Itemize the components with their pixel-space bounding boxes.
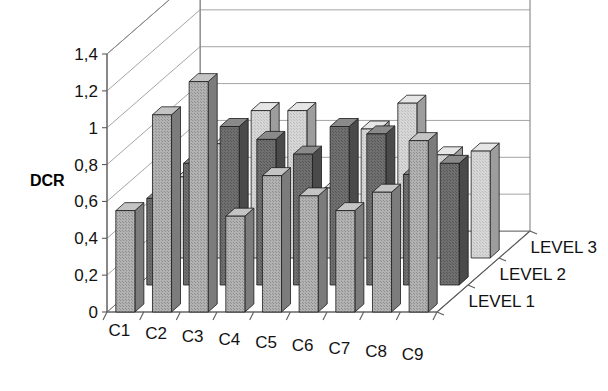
bar-front-face: [152, 115, 171, 312]
bar-c2-level1: [152, 107, 180, 312]
bar-c6-level1: [299, 188, 327, 312]
value-tick-label-2: 0,4: [74, 229, 98, 248]
value-tick-label-6: 1,2: [74, 82, 98, 101]
category-label-c8: C8: [365, 342, 387, 361]
category-label-c3: C3: [182, 327, 204, 346]
bar-c8-level1: [372, 184, 400, 312]
bar-side-face: [490, 143, 499, 258]
bar-side-face: [355, 203, 364, 312]
value-axis-title: DCR: [30, 172, 65, 189]
bar-front-face: [409, 141, 428, 312]
category-label-c5: C5: [255, 333, 277, 352]
depth-label-level-1: LEVEL 1: [469, 292, 535, 311]
value-tick-label-3: 0,6: [74, 192, 98, 211]
bar-front-face: [336, 211, 355, 312]
bar-front-face: [116, 211, 135, 312]
bar-side-face: [135, 203, 144, 312]
bar-side-face: [392, 184, 401, 312]
bar-side-face: [318, 188, 327, 312]
category-label-c9: C9: [402, 345, 424, 364]
value-tick-label-1: 0,2: [74, 266, 98, 285]
bar-side-face: [428, 133, 437, 312]
bar-front-face: [372, 192, 391, 312]
bar-c3-level1: [189, 74, 217, 312]
bar-side-face: [282, 168, 291, 312]
bar-front-face: [299, 196, 318, 312]
depth-label-level-2: LEVEL 2: [500, 265, 566, 284]
value-tick-label-0: 0: [89, 303, 98, 322]
value-tick-label-5: 1: [89, 119, 98, 138]
bar-front-face: [262, 176, 281, 312]
value-tick-label-7: 1,4: [74, 45, 98, 64]
bar-c5-level1: [262, 168, 290, 312]
bar-c9-level2: [440, 155, 468, 285]
bar-c4-level1: [226, 208, 254, 312]
bar-front-face: [189, 82, 208, 312]
value-tick-label-4: 0,8: [74, 156, 98, 175]
bar-front-face: [226, 216, 245, 312]
bar-front-face: [440, 163, 459, 285]
category-label-c6: C6: [292, 336, 314, 355]
bar-c7-level1: [336, 203, 364, 312]
category-label-c1: C1: [108, 321, 130, 340]
bar-side-face: [208, 74, 217, 312]
bar-c9-level1: [409, 133, 437, 312]
depth-label-level-3: LEVEL 3: [531, 238, 597, 257]
category-label-c7: C7: [328, 339, 350, 358]
bar-c9-level3: [471, 143, 499, 258]
bar-c1-level1: [116, 203, 144, 312]
bar-side-face: [459, 155, 468, 285]
3d-bar-chart-canvas: 00,20,40,60,811,21,4 C1C2C3C4C5C6C7C8C9 …: [0, 0, 608, 391]
chart-figure: 00,20,40,60,811,21,4 C1C2C3C4C5C6C7C8C9 …: [0, 0, 608, 391]
category-label-c2: C2: [145, 324, 167, 343]
bar-side-face: [172, 107, 181, 312]
bar-front-face: [471, 151, 490, 258]
bar-side-face: [245, 208, 254, 312]
category-label-c4: C4: [218, 330, 240, 349]
